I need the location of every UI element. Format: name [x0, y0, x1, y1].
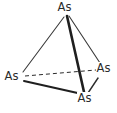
- atom-label-right: As: [96, 62, 111, 74]
- molecule-diagram: As As As As: [0, 0, 117, 113]
- bond-top-bottom: [67, 16, 84, 92]
- bond-top-left: [23, 17, 64, 72]
- bond-network: [0, 0, 117, 113]
- atom-label-top: As: [57, 1, 72, 13]
- bond-top-right: [69, 16, 100, 63]
- bond-left-right-dashed: [25, 70, 96, 76]
- atom-label-left: As: [4, 70, 19, 82]
- bond-left-bottom: [24, 81, 82, 94]
- atom-label-bottom: As: [77, 92, 92, 104]
